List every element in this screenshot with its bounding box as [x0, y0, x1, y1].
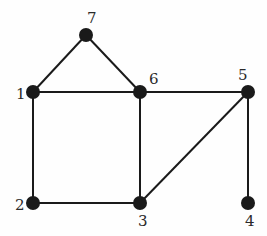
- node-1: [26, 85, 40, 99]
- node-label-4: 4: [245, 212, 255, 230]
- node-label-2: 2: [15, 196, 25, 214]
- node-label-7: 7: [87, 9, 97, 27]
- node-3: [133, 196, 147, 210]
- node-label-1: 1: [16, 85, 26, 103]
- node-label-6: 6: [149, 70, 159, 88]
- node-4: [241, 196, 255, 210]
- node-2: [26, 196, 40, 210]
- edges: [33, 35, 248, 203]
- node-6: [133, 85, 147, 99]
- graph-diagram: 1234567: [0, 0, 267, 236]
- node-7: [79, 28, 93, 42]
- edge-1-7: [33, 35, 86, 92]
- node-label-3: 3: [138, 212, 148, 230]
- edge-7-6: [86, 35, 140, 92]
- graph-svg: 1234567: [0, 0, 267, 236]
- node-5: [241, 85, 255, 99]
- node-label-5: 5: [238, 66, 248, 84]
- labels: 1234567: [15, 9, 255, 230]
- edge-3-5: [140, 92, 248, 203]
